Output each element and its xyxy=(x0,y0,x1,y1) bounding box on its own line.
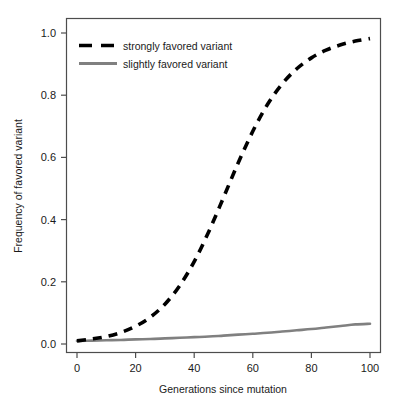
x-tick-label-2: 40 xyxy=(188,362,200,374)
legend-label-slightly-favored-variant: slightly favored variant xyxy=(123,58,228,70)
y-tick-label-4: 0.8 xyxy=(41,89,56,101)
y-tick-label-3: 0.6 xyxy=(41,151,56,163)
chart-figure: 0.0 0.2 0.4 0.6 0.8 1.0 0 20 40 60 80 10… xyxy=(0,0,403,416)
y-tick-label-0: 0.0 xyxy=(41,338,56,350)
x-axis-title: Generations since mutation xyxy=(159,383,287,395)
x-tick-label-1: 20 xyxy=(129,362,141,374)
x-tick-label-5: 100 xyxy=(361,362,379,374)
y-axis-title: Frequency of favored variant xyxy=(12,119,24,253)
y-tick-label-1: 0.2 xyxy=(41,276,56,288)
x-tick-label-3: 60 xyxy=(247,362,259,374)
x-tick-label-0: 0 xyxy=(74,362,80,374)
y-tick-label-5: 1.0 xyxy=(41,27,56,39)
legend-label-strongly-favored-variant: strongly favored variant xyxy=(123,40,232,52)
plot-canvas: 0.0 0.2 0.4 0.6 0.8 1.0 0 20 40 60 80 10… xyxy=(0,0,403,416)
y-tick-label-2: 0.4 xyxy=(41,214,56,226)
x-tick-label-4: 80 xyxy=(305,362,317,374)
